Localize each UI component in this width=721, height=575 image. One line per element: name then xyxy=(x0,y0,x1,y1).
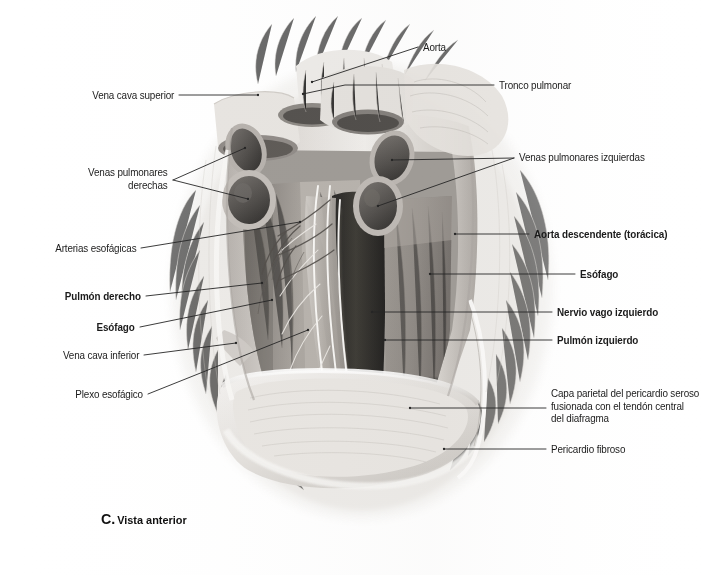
label-nervio-vago-izquierdo: Nervio vago izquierdo xyxy=(557,306,658,319)
anatomy-figure-page: AortaTronco pulmonarVena cava superiorVe… xyxy=(0,0,721,575)
illustration-svg xyxy=(0,0,721,575)
label-aorta-descendente: Aorta descendente (torácica) xyxy=(534,228,667,241)
label-venas-pulmonares-derechas: Venas pulmonares derechas xyxy=(88,166,168,191)
label-venas-pulmonares-izquierdas: Venas pulmonares izquierdas xyxy=(519,151,645,164)
label-aorta: Aorta xyxy=(423,41,446,54)
label-capa-parietal-pericardio: Capa parietal del pericardio seroso fusi… xyxy=(551,387,699,425)
caption-text: Vista anterior xyxy=(117,514,187,526)
caption-letter: C. xyxy=(101,510,115,527)
label-vena-cava-inferior: Vena cava inferior xyxy=(63,349,139,362)
vignette xyxy=(0,0,721,575)
anatomical-illustration xyxy=(0,0,721,575)
label-plexo-esofagico: Plexo esofágico xyxy=(75,388,143,401)
figure-caption: C.Vista anterior xyxy=(101,510,187,528)
label-pulmon-izquierdo: Pulmón izquierdo xyxy=(557,334,638,347)
label-esofago-derecho: Esófago xyxy=(580,268,618,281)
label-tronco-pulmonar: Tronco pulmonar xyxy=(499,79,571,92)
label-pulmon-derecho: Pulmón derecho xyxy=(65,290,141,303)
label-vena-cava-superior: Vena cava superior xyxy=(92,89,174,102)
label-pericardio-fibroso: Pericardio fibroso xyxy=(551,443,625,456)
label-esofago-izquierdo: Esófago xyxy=(97,321,135,334)
label-arterias-esofagicas: Arterias esofágicas xyxy=(55,242,136,255)
